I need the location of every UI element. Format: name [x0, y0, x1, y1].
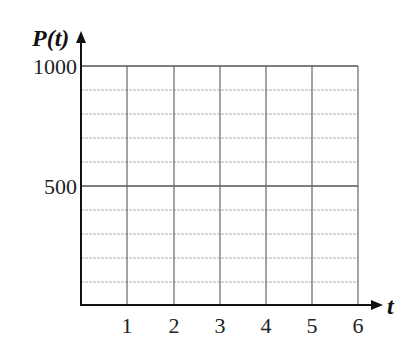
y-tick-500: 500 [44, 174, 77, 199]
y-tick-1000: 1000 [33, 54, 77, 79]
x-tick-1: 1 [122, 313, 133, 338]
x-tick-6: 6 [353, 313, 364, 338]
x-tick-3: 3 [215, 313, 226, 338]
x-tick-5: 5 [307, 313, 318, 338]
x-tick-4: 4 [261, 313, 272, 338]
chart-canvas: P(t) t 1000 500 1 2 3 4 5 6 [0, 0, 418, 354]
x-axis-label: t [387, 293, 395, 319]
y-axis-arrow-icon [76, 31, 86, 43]
x-axis-arrow-icon [371, 300, 383, 310]
axes [80, 40, 375, 306]
y-axis-label: P(t) [31, 25, 69, 51]
x-tick-2: 2 [169, 313, 180, 338]
